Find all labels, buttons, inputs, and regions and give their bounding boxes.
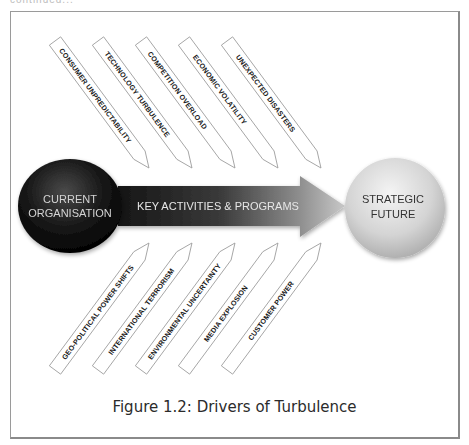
drivers-diagram: CONSUMER UNPREDICTABILITY TECHNOLOGY TUR…	[0, 0, 469, 445]
end-node-line2: FUTURE	[371, 208, 416, 220]
figure-caption: Figure 1.2: Drivers of Turbulence	[0, 398, 469, 416]
start-node-line1: CURRENT	[43, 193, 97, 205]
driver-label: ENVIRONMENTAL UNCERTAINTY	[146, 262, 223, 362]
end-node: STRATEGIC FUTURE	[345, 158, 445, 258]
drivers-bottom-group: GEO-POLITICAL POWER SHIFTS INTERNATIONAL…	[49, 239, 326, 374]
end-node-line1: STRATEGIC	[362, 193, 424, 205]
driver-label: MEDIA EXPLOSION	[202, 284, 250, 344]
main-arrow-label: KEY ACTIVITIES & PROGRAMS	[137, 200, 299, 212]
start-node-line2: ORGANISATION	[28, 207, 112, 219]
drivers-top-group: CONSUMER UNPREDICTABILITY TECHNOLOGY TUR…	[49, 37, 326, 172]
main-arrow: KEY ACTIVITIES & PROGRAMS	[118, 176, 345, 237]
start-node: CURRENT ORGANISATION	[18, 159, 122, 253]
